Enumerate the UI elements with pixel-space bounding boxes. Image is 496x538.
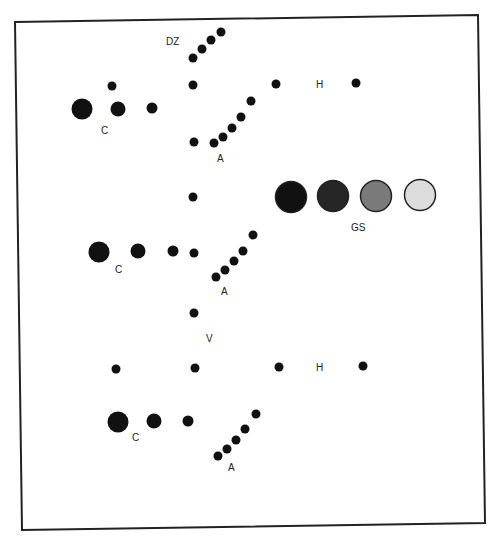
dot-c1	[147, 103, 158, 114]
dot-a2	[239, 247, 248, 256]
grayscale-swatch-row	[276, 180, 436, 213]
dot-layer	[72, 28, 368, 461]
dot-dz	[207, 36, 216, 45]
dot-c1	[111, 102, 126, 117]
label-gs: GS	[351, 222, 366, 233]
label-h-2: H	[316, 362, 323, 373]
label-dz: DZ	[166, 36, 179, 47]
dot-row3	[191, 364, 200, 373]
dot-a3	[232, 436, 241, 445]
label-a-3: A	[228, 462, 235, 473]
dot-row3	[112, 365, 121, 374]
dot-c2	[168, 246, 179, 257]
dot-a2	[230, 257, 239, 266]
dot-c2	[89, 242, 110, 263]
dot-h2	[359, 362, 368, 371]
dot-a3	[214, 452, 223, 461]
dot-a1	[228, 124, 237, 133]
label-a-1: A	[217, 153, 224, 164]
dot-a1	[190, 138, 199, 147]
dot-a1	[247, 97, 256, 106]
grayscale-swatch-2	[318, 181, 349, 212]
dot-c3	[183, 416, 194, 427]
dot-a3	[241, 425, 250, 434]
dot-c3	[147, 414, 162, 429]
label-c-2: C	[115, 264, 122, 275]
label-c-3: C	[132, 432, 139, 443]
dot-a1	[219, 133, 228, 142]
grayscale-swatch-3	[361, 181, 392, 212]
diagram-canvas: DZ C A H GS C A V H C A	[0, 0, 496, 538]
dot-dz	[198, 45, 207, 54]
dot-a1	[237, 113, 246, 122]
dot-c3	[108, 412, 129, 433]
dot-c2	[131, 244, 146, 259]
dot-a3	[223, 445, 232, 454]
grayscale-swatch-1	[276, 182, 307, 213]
dot-v	[190, 309, 199, 318]
dot-row1	[189, 81, 198, 90]
dot-c1	[72, 99, 93, 120]
label-v: V	[206, 333, 213, 344]
dot-c2	[190, 249, 199, 258]
dot-h1	[272, 80, 281, 89]
label-c-1: C	[101, 125, 108, 136]
dot-h2	[275, 363, 284, 372]
dot-a2	[221, 266, 230, 275]
label-h-1: H	[316, 79, 323, 90]
dot-mid	[189, 193, 198, 202]
dot-dz	[189, 54, 198, 63]
dot-a1	[210, 139, 219, 148]
dot-dz	[217, 28, 226, 37]
label-a-2: A	[221, 286, 228, 297]
dot-c1	[108, 82, 117, 91]
dot-a3	[252, 410, 261, 419]
dot-a2	[249, 231, 258, 240]
dot-h1	[352, 79, 361, 88]
frame-border	[15, 15, 485, 530]
dot-a2	[212, 273, 221, 282]
grayscale-swatch-4	[405, 180, 436, 211]
